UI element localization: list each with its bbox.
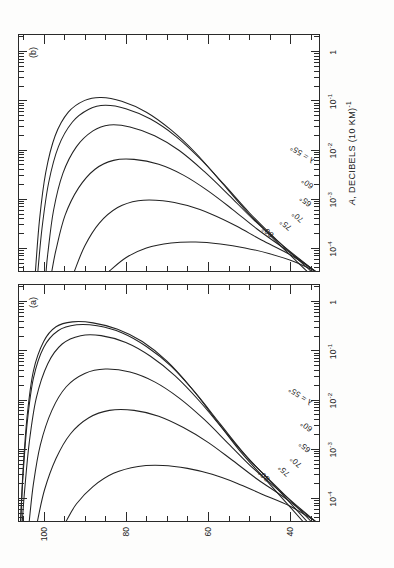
x-tick-label: 10-1 [328,344,338,360]
x-tick [19,460,24,461]
y-tick [311,516,312,521]
x-tick [314,500,319,501]
x-tick [311,350,319,351]
x-tick [19,51,27,52]
y-tick [64,266,65,271]
x-tick [19,157,24,158]
y-tick [85,516,86,521]
x-tick [314,184,319,185]
x-tick [19,327,24,328]
y-tick [270,266,271,271]
x-tick [19,169,24,170]
x-tick [311,100,319,101]
y-tick [23,516,24,521]
x-tick [19,248,27,249]
x-tick [314,419,319,420]
x-tick-label: 1 [328,300,338,305]
x-tick [19,77,24,78]
x-tick [311,301,319,302]
curve-65 [52,159,315,271]
y-tick [105,516,106,521]
x-tick [19,365,24,366]
x-tick [19,303,24,304]
x-tick [19,355,24,356]
x-tick [314,160,319,161]
x-tick [314,175,319,176]
y-tick [146,516,147,521]
y-tick [229,266,230,271]
x-tick [19,419,24,420]
x-tick [314,316,319,317]
y-tick [208,512,209,521]
y-tick [290,512,291,521]
x-tick [314,201,319,202]
x-tick [19,62,24,63]
x-tick [19,312,24,313]
x-tick [19,456,24,457]
y-tick [270,35,271,40]
x-tick [19,210,24,211]
x-tick [311,51,319,52]
x-tick [19,120,24,121]
x-tick [314,353,319,354]
x-tick [19,115,24,116]
y-tick [146,285,147,290]
x-tick [314,105,319,106]
x-tick [19,309,24,310]
x-tick [19,224,24,225]
x-tick [314,306,319,307]
y-tick [290,285,291,294]
x-tick [314,120,319,121]
y-tick [249,285,250,290]
x-tick [314,410,319,411]
y-tick [187,266,188,271]
x-axis-title: A, DECIBELS (10 KM)-1 [347,0,357,396]
x-tick [314,303,319,304]
y-tick [311,35,312,40]
x-tick [314,126,319,127]
y-tick [85,285,86,290]
y-tick [44,262,45,271]
x-tick [19,306,24,307]
y-tick-label: 80 [121,527,131,551]
panel-a-plot-area [19,285,319,521]
x-tick [314,256,319,257]
x-tick-label: 10-4 [328,491,338,507]
y-tick [290,35,291,44]
x-tick [314,474,319,475]
x-tick [19,453,24,454]
x-tick [314,77,319,78]
panel-a-tag: (a) [28,297,38,308]
x-tick [314,506,319,507]
y-tick [229,35,230,40]
x-tick [19,59,24,60]
x-tick [314,468,319,469]
x-tick [19,385,24,386]
x-tick [314,336,319,337]
x-tick-label: 1 [328,50,338,55]
x-tick-label: 10-4 [328,241,338,257]
curve-60 [37,410,314,521]
x-tick [314,224,319,225]
y-tick [126,512,127,521]
x-tick [314,233,319,234]
x-tick [314,385,319,386]
x-tick [19,56,24,57]
x-tick [314,36,319,37]
x-tick [314,154,319,155]
x-tick [19,201,24,202]
x-tick [314,321,319,322]
x-tick [314,152,319,153]
x-tick [314,414,319,415]
x-tick [19,152,24,153]
x-tick [314,263,319,264]
y-tick [105,35,106,40]
y-tick [290,262,291,271]
y-tick [105,285,106,290]
x-tick [19,218,24,219]
x-tick [19,410,24,411]
panel-b: (b) 10-410-310-210-11 80°75°70°65°60°λ =… [18,34,320,272]
x-tick [19,199,27,200]
x-tick [19,100,27,101]
y-tick [64,285,65,290]
